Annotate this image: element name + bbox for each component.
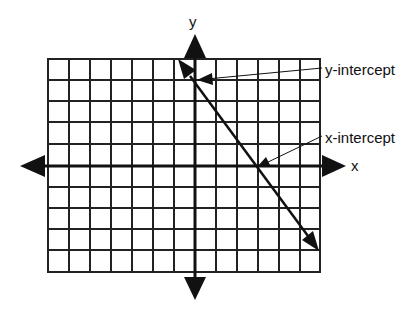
y-axis-label: y	[189, 14, 197, 29]
plotted-line	[178, 59, 319, 251]
line-top-arrow-icon	[178, 59, 196, 79]
y-axis-up-arrow-icon	[184, 34, 206, 58]
coordinate-plane-diagram: y x y-intercept x-intercept	[0, 0, 413, 317]
x-axis-right-arrow-icon	[322, 155, 346, 177]
x-axis-left-arrow-icon	[20, 155, 45, 177]
x-axis-label: x	[351, 158, 359, 173]
x-intercept-label: x-intercept	[325, 130, 395, 145]
y-axis-down-arrow-icon	[184, 277, 206, 300]
line-bottom-arrow-icon	[302, 231, 319, 251]
y-intercept-pointer-icon	[197, 73, 213, 85]
x-intercept-leader	[257, 136, 322, 167]
y-intercept-label: y-intercept	[325, 62, 395, 77]
